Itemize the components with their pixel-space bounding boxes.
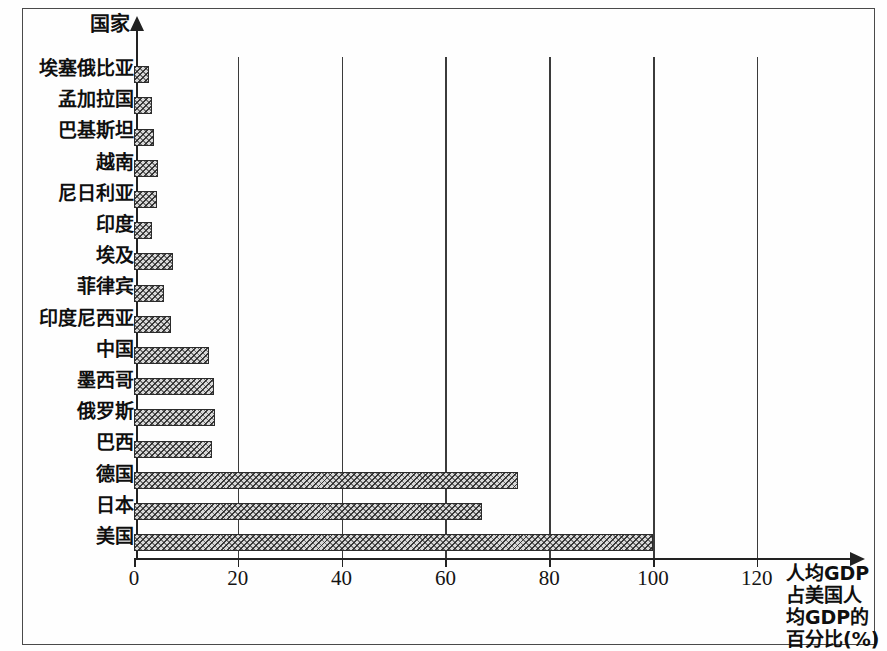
gridline-80: [549, 57, 551, 558]
category-label-row: 越南: [0, 153, 134, 173]
category-label-row: 印度尼西亚: [0, 309, 134, 329]
category-label-row: 墨西哥: [0, 371, 134, 391]
category-label: 美国: [96, 527, 134, 546]
bar: [134, 534, 653, 551]
category-label-row: 孟加拉国: [0, 90, 134, 110]
bar: [134, 378, 214, 395]
bar: [134, 347, 209, 364]
bar: [134, 191, 157, 208]
x-tick-label-0: 0: [129, 566, 140, 591]
category-label: 埃塞俄比亚: [39, 59, 134, 78]
bar: [134, 160, 158, 177]
y-axis-arrow-icon: [130, 16, 144, 31]
category-label: 墨西哥: [77, 371, 134, 390]
category-label-row: 印度: [0, 215, 134, 235]
category-label: 中国: [96, 340, 134, 359]
category-label-row: 俄罗斯: [0, 402, 134, 422]
x-axis-title-line-1: 人均GDP: [786, 562, 881, 584]
category-label: 埃及: [96, 246, 134, 265]
x-tick-label-100: 100: [637, 566, 669, 591]
bar: [134, 409, 215, 426]
x-axis-title: 人均GDP 占美国人 均GDP的 百分比(%): [786, 562, 881, 650]
category-label-row: 埃及: [0, 246, 134, 266]
x-tick-label-80: 80: [539, 566, 560, 591]
category-label: 印度尼西亚: [39, 309, 134, 328]
category-label: 菲律宾: [77, 277, 134, 296]
bar: [134, 316, 171, 333]
x-tick-label-20: 20: [227, 566, 248, 591]
category-label-row: 菲律宾: [0, 277, 134, 297]
x-tick-label-40: 40: [331, 566, 352, 591]
gridline-120: [757, 57, 759, 558]
x-axis-title-line-4: 百分比(%): [786, 628, 881, 650]
x-tick-label-120: 120: [741, 566, 773, 591]
bar: [134, 97, 152, 114]
bar: [134, 503, 482, 520]
category-label: 尼日利亚: [58, 184, 134, 203]
category-label: 越南: [96, 153, 134, 172]
category-label-row: 日本: [0, 496, 134, 516]
category-label: 德国: [96, 465, 134, 484]
y-axis-title: 国家: [56, 8, 130, 37]
category-label-row: 美国: [0, 527, 134, 547]
category-label: 日本: [96, 496, 134, 515]
category-label: 孟加拉国: [58, 90, 134, 109]
category-label-row: 德国: [0, 465, 134, 485]
bar: [134, 441, 212, 458]
category-label-row: 巴基斯坦: [0, 121, 134, 141]
category-label-row: 埃塞俄比亚: [0, 59, 134, 79]
category-label: 俄罗斯: [77, 402, 134, 421]
category-label-row: 巴西: [0, 433, 134, 453]
category-label: 巴基斯坦: [58, 121, 134, 140]
x-axis-line: [134, 558, 852, 560]
category-label-row: 中国: [0, 340, 134, 360]
chart-figure: 国家 020406080100120 埃塞俄比亚孟加拉国巴基斯坦越南尼日利亚印度…: [0, 0, 887, 651]
bar: [134, 285, 164, 302]
bar: [134, 222, 152, 239]
bar: [134, 253, 173, 270]
bar: [134, 66, 149, 83]
x-axis-title-line-2: 占美国人: [786, 584, 881, 606]
category-label-row: 尼日利亚: [0, 184, 134, 204]
bar: [134, 472, 518, 489]
x-tick-label-60: 60: [435, 566, 456, 591]
x-axis-title-line-3: 均GDP的: [786, 606, 881, 628]
gridline-100: [653, 57, 655, 558]
plot-area: 国家 020406080100120 埃塞俄比亚孟加拉国巴基斯坦越南尼日利亚印度…: [0, 0, 887, 651]
category-label: 巴西: [96, 433, 134, 452]
category-label: 印度: [96, 215, 134, 234]
bar: [134, 129, 154, 146]
